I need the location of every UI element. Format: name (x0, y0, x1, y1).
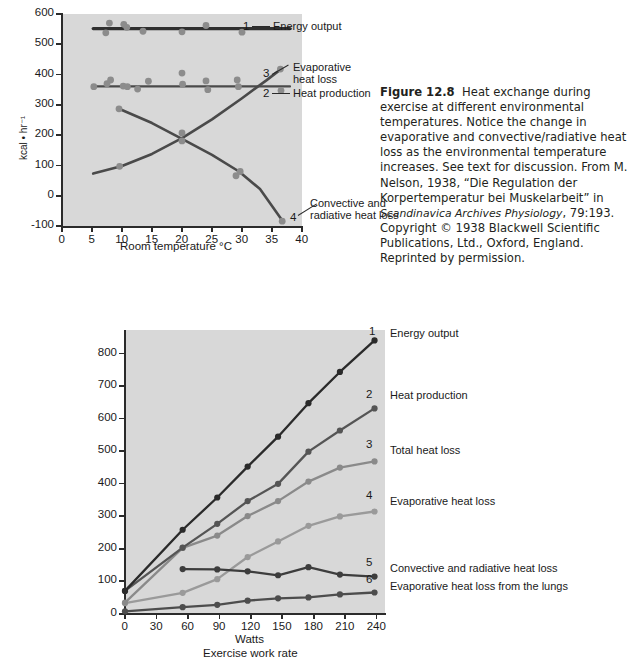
top-x-tick (301, 226, 303, 232)
bottom-y-tick (119, 580, 126, 582)
bottom-series-6-label: Evaporative heat loss from the lungs (390, 580, 568, 592)
top-x-tick-label: 35 (255, 233, 288, 245)
top-series-2-number: 2 (263, 87, 269, 99)
bottom-series-2-label: Heat production (390, 389, 468, 401)
top-series-2-leader (272, 93, 290, 94)
top-y-tick (56, 43, 63, 45)
bottom-y-tick-label: 0 (77, 606, 117, 618)
bottom-y-tick (119, 353, 126, 355)
bottom-y-tick-label: 700 (77, 378, 117, 390)
bottom-x-tick-label: 150 (265, 620, 298, 632)
top-y-tick (56, 104, 63, 106)
bottom-series-3-label: Total heat loss (390, 444, 460, 456)
top-x-tick-label: 0 (45, 233, 78, 245)
bottom-y-tick (119, 515, 126, 517)
top-y-tick-label: 200 (14, 127, 54, 139)
top-series-1-number: 1 (243, 20, 249, 32)
bottom-y-tick-label: 300 (77, 508, 117, 520)
top-series-1-label: Energy output (273, 20, 342, 32)
bottom-y-tick-label: 100 (77, 573, 117, 585)
bottom-x-tick (376, 613, 378, 619)
top-y-tick (56, 195, 63, 197)
bottom-series-1-label: Energy output (390, 327, 459, 339)
bottom-series-6-number: 6 (366, 573, 372, 585)
top-series-4-label-line1: Convective and (310, 197, 386, 209)
bottom-y-tick-label: 800 (77, 346, 117, 358)
top-x-tick-label: 40 (285, 233, 318, 245)
bottom-series-4-number: 4 (366, 489, 372, 501)
bottom-x-axis-title: Watts (235, 633, 264, 645)
bottom-y-tick (119, 483, 126, 485)
bottom-x-tick-label: 60 (171, 620, 204, 632)
figure-caption: Figure 12.8 Heat exchange during exercis… (380, 85, 632, 266)
bottom-y-tick-label: 500 (77, 443, 117, 455)
top-x-tick (91, 226, 93, 232)
top-y-tick-label: 100 (14, 158, 54, 170)
bottom-series-4-label: Evaporative heat loss (390, 495, 495, 507)
top-y-tick (56, 134, 63, 136)
figure-12-8-bottom-chart: kcal • hr⁻¹ 8007006005004003002001000 03… (0, 330, 637, 668)
top-y-tick-label: 300 (14, 97, 54, 109)
bottom-x-tick (281, 613, 283, 619)
bottom-plot-background (125, 330, 385, 613)
top-y-tick-label: 500 (14, 36, 54, 48)
top-x-tick (241, 226, 243, 232)
figure-caption-text-1: Heat exchange during exercise at differe… (380, 85, 627, 205)
bottom-series-2-number: 2 (366, 388, 372, 400)
bottom-x-tick-label: 30 (140, 620, 173, 632)
bottom-x-tick (250, 613, 252, 619)
top-series-1-leader (252, 26, 270, 27)
bottom-x-tick (156, 613, 158, 619)
top-y-tick-label: 400 (14, 67, 54, 79)
figure-caption-journal: Scandinavica Archives Physiology (380, 207, 562, 220)
top-series-3-label-line1: Evaporative (293, 61, 351, 73)
bottom-x-tick-label: 90 (203, 620, 236, 632)
bottom-x-tick (124, 613, 126, 619)
top-series-3-label: Evaporative heat loss (293, 61, 351, 85)
bottom-series-3-number: 3 (366, 438, 372, 450)
bottom-x-axis-line (124, 613, 386, 615)
bottom-x-tick (187, 613, 189, 619)
bottom-series-1-number: 1 (369, 325, 375, 337)
top-y-tick-label: 0 (14, 188, 54, 200)
top-series-4-number: 4 (290, 211, 296, 223)
top-x-tick (271, 226, 273, 232)
bottom-y-tick (119, 450, 126, 452)
bottom-y-tick-label: 600 (77, 411, 117, 423)
top-x-axis-title: Room temperature °C (120, 240, 232, 252)
bottom-y-axis-line (124, 330, 126, 614)
bottom-y-tick (119, 548, 126, 550)
top-y-tick (56, 13, 63, 15)
bottom-y-tick-label: 400 (77, 476, 117, 488)
top-plot-background (62, 14, 302, 226)
top-x-tick (61, 226, 63, 232)
bottom-x-tick-label: 0 (108, 620, 141, 632)
bottom-x-tick-label: 210 (328, 620, 361, 632)
top-y-tick (56, 165, 63, 167)
figure-caption-label: Figure 12.8 (380, 85, 455, 99)
bottom-x-tick-label: 240 (360, 620, 393, 632)
top-y-tick-label: 600 (14, 6, 54, 18)
bottom-x-tick (219, 613, 221, 619)
bottom-x-tick-label: 120 (234, 620, 267, 632)
bottom-x-tick-label: 180 (297, 620, 330, 632)
bottom-series-5-number: 5 (366, 556, 372, 568)
bottom-y-tick (119, 385, 126, 387)
bottom-x-tick (313, 613, 315, 619)
top-series-3-label-line2: heat loss (293, 73, 337, 85)
top-x-tick (151, 226, 153, 232)
top-x-tick (121, 226, 123, 232)
bottom-x-tick (344, 613, 346, 619)
figure-12-8-top-chart: kcal • hr⁻¹ 6005004003002001000-100 0510… (0, 0, 380, 258)
top-x-tick (211, 226, 213, 232)
top-x-tick-label: 5 (75, 233, 108, 245)
top-series-3-number: 3 (263, 67, 269, 79)
top-y-tick-label: -100 (14, 218, 54, 230)
bottom-series-5-label: Convective and radiative heat loss (390, 562, 558, 574)
top-x-tick (181, 226, 183, 232)
top-series-2-label: Heat production (293, 87, 371, 99)
top-y-tick (56, 74, 63, 76)
bottom-y-tick-label: 200 (77, 541, 117, 553)
bottom-y-tick (119, 418, 126, 420)
bottom-x-axis-subtitle: Exercise work rate (203, 647, 298, 659)
